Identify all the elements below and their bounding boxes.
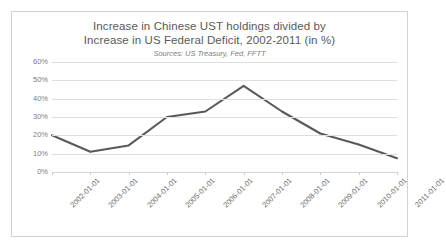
chart-title-line-1: Increase in Chinese UST holdings divided… <box>12 19 407 33</box>
x-tick-label: 2004-01-01 <box>145 176 178 209</box>
gridline-60% <box>52 62 397 63</box>
x-tick-label: 2008-01-01 <box>298 176 331 209</box>
y-tick-label: 10% <box>33 150 48 158</box>
x-tick <box>52 172 53 175</box>
x-tick <box>90 172 91 175</box>
y-tick-label: 60% <box>33 58 48 66</box>
x-tick-label: 2005-01-01 <box>183 176 216 209</box>
gridline-20% <box>52 135 397 136</box>
x-tick <box>320 172 321 175</box>
x-tick <box>359 172 360 175</box>
x-tick-label: 2009-01-01 <box>337 176 370 209</box>
chart-frame: Increase in Chinese UST holdings divided… <box>11 11 408 237</box>
y-tick-label: 40% <box>33 95 48 103</box>
x-tick <box>129 172 130 175</box>
plot-wrapper: 0%10%20%30%40%50%60% 2002-01-012003-01-0… <box>24 62 397 232</box>
x-tick-label: 2007-01-01 <box>260 176 293 209</box>
y-axis: 0%10%20%30%40%50%60% <box>24 62 50 187</box>
y-tick-label: 20% <box>33 131 48 139</box>
gridline-40% <box>52 99 397 100</box>
chart-subtitle: Sources: US Treasury, Fed, FFTT <box>12 48 407 59</box>
chart-title-block: Increase in Chinese UST holdings divided… <box>12 19 407 59</box>
x-tick <box>167 172 168 175</box>
x-tick-label: 2002-01-01 <box>68 176 101 209</box>
y-tick-label: 30% <box>33 113 48 121</box>
x-tick <box>397 172 398 175</box>
x-tick <box>205 172 206 175</box>
x-axis-labels: 2002-01-012003-01-012004-01-012005-01-01… <box>52 176 397 232</box>
x-tick-label: 2010-01-01 <box>375 176 408 209</box>
gridline-30% <box>52 117 397 118</box>
x-tick-label: 2011-01-01 <box>413 176 446 209</box>
y-tick-label: 0% <box>37 168 48 176</box>
x-tick <box>282 172 283 175</box>
x-tick-label: 2003-01-01 <box>107 176 140 209</box>
gridline-50% <box>52 80 397 81</box>
y-tick-label: 50% <box>33 76 48 84</box>
chart-title-line-2: Increase in US Federal Deficit, 2002-201… <box>12 33 407 47</box>
x-tick <box>244 172 245 175</box>
gridline-10% <box>52 154 397 155</box>
x-tick-label: 2006-01-01 <box>222 176 255 209</box>
plot-area <box>52 62 397 172</box>
